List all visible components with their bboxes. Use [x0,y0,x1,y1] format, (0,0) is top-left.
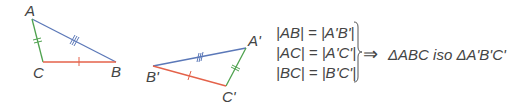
vertex-label-b-prime: B' [146,69,159,84]
vertex-label-a-prime: A' [248,33,261,48]
tick-marks-a-prime-b-prime [197,52,203,62]
vertex-label-a: A [25,3,35,18]
side-a-prime-b-prime [153,48,246,66]
equation-bc: |BC| = |B'C'| [276,65,356,80]
equation-ab: |AB| = |A'B'| [276,25,354,40]
conclusion-text: ΔABC iso ΔA'B'C' [388,47,506,62]
vertex-label-c: C [33,65,44,80]
vertex-label-c-prime: C' [222,89,236,104]
side-ac [32,19,43,62]
vertex-label-b: B [111,64,121,79]
tick-marks-ab [70,35,79,46]
equation-ac: |AC| = |A'C'| [276,45,356,60]
implies-arrow-icon: ⇒ [363,45,378,63]
